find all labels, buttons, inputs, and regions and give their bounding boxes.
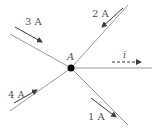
node-label: A — [66, 51, 74, 62]
label-1a: 1 A — [88, 111, 106, 122]
label-4a: 4 A — [8, 89, 26, 100]
junction-diagram: A 3 A 2 A i 4 A 1 A — [0, 0, 158, 130]
label-3a: 3 A — [25, 16, 43, 27]
junction-node — [68, 65, 75, 72]
label-i: i — [123, 49, 126, 60]
wire-upper-left — [10, 34, 71, 68]
arrow-3a-icon — [15, 27, 42, 42]
label-2a: 2 A — [92, 8, 110, 19]
